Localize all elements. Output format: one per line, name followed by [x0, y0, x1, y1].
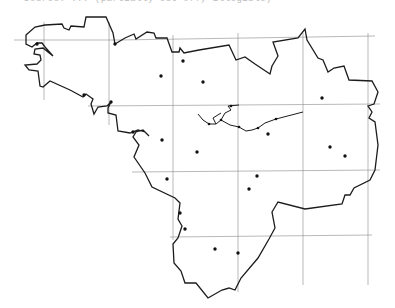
map-point [113, 42, 116, 45]
map-point [181, 59, 184, 62]
map-point [160, 138, 163, 141]
river-point [208, 123, 211, 126]
map-point [195, 150, 198, 153]
coastline-outline [25, 17, 378, 298]
river-estuary [198, 105, 303, 131]
map-point [165, 177, 168, 180]
map-point [109, 100, 112, 103]
settlement-points [35, 42, 346, 254]
map-point [183, 227, 186, 230]
map-point [82, 93, 85, 96]
map-point [328, 145, 331, 148]
map-point [343, 154, 346, 157]
map-point [266, 132, 269, 135]
river-point [220, 119, 223, 122]
map-point [35, 42, 38, 45]
map-point [159, 74, 162, 77]
map-grid [14, 22, 380, 292]
map-point [131, 130, 134, 133]
map-point [255, 174, 258, 177]
map-point [236, 251, 239, 254]
map-point [201, 80, 204, 83]
river-point [230, 105, 233, 108]
river-point [238, 126, 241, 129]
river-point [257, 127, 260, 130]
map-point [213, 247, 216, 250]
map-point [320, 96, 323, 99]
map-point [247, 187, 250, 190]
map-point [178, 211, 181, 214]
region-map [0, 0, 395, 308]
river-point [275, 118, 278, 121]
